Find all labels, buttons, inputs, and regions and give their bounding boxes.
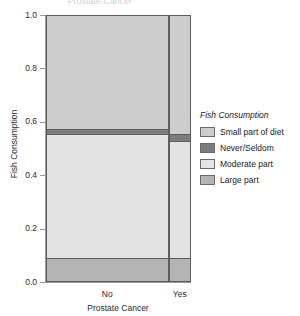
mosaic-segment xyxy=(170,16,190,134)
y-tick-label: 1.0 xyxy=(5,11,37,20)
figure-title: Prostate Cancer xyxy=(0,0,200,6)
x-tick-label-yes: Yes xyxy=(150,289,210,299)
mosaic-segment xyxy=(47,258,168,281)
legend-item-label: Small part of diet xyxy=(220,127,284,137)
mosaic-segment xyxy=(170,258,190,281)
legend: Fish Consumption Small part of dietNever… xyxy=(200,110,300,188)
x-axis-line xyxy=(45,282,191,283)
y-tick-mark xyxy=(40,175,45,176)
y-axis-title: Fish Consumption xyxy=(9,89,19,199)
x-axis-title: Prostate Cancer xyxy=(45,303,191,313)
x-tick-label-no: No xyxy=(77,289,137,299)
legend-item: Never/Seldom xyxy=(200,140,300,155)
legend-title: Fish Consumption xyxy=(200,110,300,120)
plot-area xyxy=(46,15,191,282)
legend-swatch xyxy=(200,143,215,153)
legend-swatch xyxy=(200,159,215,169)
legend-item-label: Never/Seldom xyxy=(220,143,274,153)
mosaic-column-no xyxy=(46,15,169,282)
mosaic-segment xyxy=(170,141,190,259)
legend-item-label: Large part xyxy=(220,175,259,185)
legend-item-label: Moderate part xyxy=(220,159,273,169)
y-tick-label: 0.2 xyxy=(5,224,37,233)
legend-items: Small part of dietNever/SeldomModerate p… xyxy=(200,124,300,187)
legend-item: Small part of diet xyxy=(200,124,300,139)
y-tick-label: 0.0 xyxy=(5,278,37,287)
legend-item: Moderate part xyxy=(200,156,300,171)
y-tick-mark xyxy=(40,68,45,69)
mosaic-column-yes xyxy=(169,15,191,282)
y-tick-mark xyxy=(40,229,45,230)
legend-swatch xyxy=(200,175,215,185)
y-tick-mark xyxy=(40,15,45,16)
mosaic-segment xyxy=(47,134,168,259)
legend-swatch xyxy=(200,127,215,137)
y-tick-mark xyxy=(40,122,45,123)
mosaic-plot-figure: Prostate Cancer 0.00.20.40.60.81.0 Fish … xyxy=(0,0,300,316)
mosaic-segment xyxy=(47,16,168,129)
y-tick-label: 0.8 xyxy=(5,64,37,73)
mosaic-segment xyxy=(170,134,190,141)
legend-item: Large part xyxy=(200,172,300,187)
